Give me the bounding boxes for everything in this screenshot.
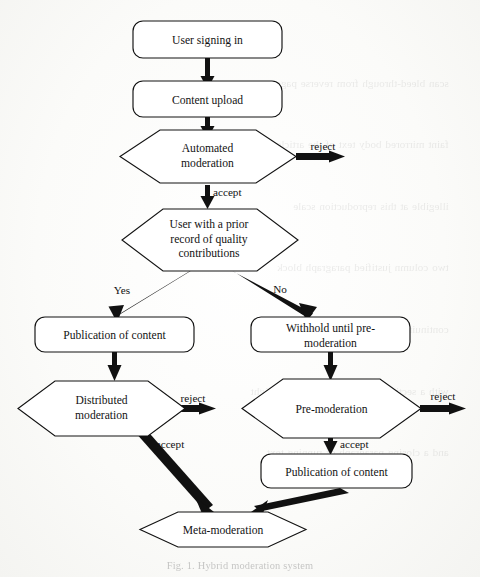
edge-publication-to-distributed (108, 352, 122, 381)
figure-caption: Fig. 1. Hybrid moderation system (0, 560, 480, 571)
node-label-line1: Withhold until pre- (286, 322, 375, 335)
node-label-line1: Distributed (75, 394, 127, 407)
flowchart-diagram: User signing in Content upload Automated… (0, 0, 480, 577)
node-pre-moderation[interactable]: Pre-moderation (242, 379, 421, 438)
node-label: User signing in (172, 34, 243, 47)
node-label: Meta-moderation (183, 524, 264, 537)
node-label-line2: moderation (181, 157, 234, 170)
edge-premoderation-reject (420, 403, 466, 415)
node-label-line2: moderation (304, 337, 357, 350)
edge-label-accept-distributed: accept (156, 438, 185, 450)
edge-label-no: No (273, 283, 287, 295)
node-content-upload[interactable]: Content upload (133, 81, 282, 117)
node-label-line2: moderation (75, 409, 128, 422)
edge-label-reject-distributed: reject (181, 392, 207, 404)
node-label: Publication of content (285, 466, 388, 479)
node-label-line1: User with a prior (170, 218, 249, 231)
node-prior-record[interactable]: User with a prior record of quality cont… (122, 209, 298, 271)
node-label-line1: Automated (182, 142, 234, 155)
node-label: Pre-moderation (295, 403, 367, 416)
edge-label-accept-premoderation: accept (340, 438, 369, 450)
node-label-line2: record of quality (170, 233, 247, 246)
node-automated-moderation[interactable]: Automated moderation (120, 130, 296, 183)
node-distributed-moderation[interactable]: Distributed moderation (18, 381, 185, 436)
edge-label-yes: Yes (114, 284, 130, 296)
node-user-signing-in[interactable]: User signing in (133, 21, 282, 58)
edge-withhold-to-premoderation (324, 352, 338, 381)
node-label: Content upload (172, 94, 243, 107)
node-meta-moderation[interactable]: Meta-moderation (140, 512, 306, 547)
scanned-page: scan bleed-through from reverse page fai… (0, 0, 480, 577)
node-publication-right[interactable]: Publication of content (261, 454, 412, 488)
node-label-line3: contributions (178, 247, 240, 260)
edge-automated-reject (296, 151, 345, 163)
edge-label-reject-premoderation: reject (431, 390, 457, 402)
node-publication-left[interactable]: Publication of content (35, 317, 194, 352)
edge-label-reject-automated: reject (311, 140, 337, 152)
edge-label-accept-automated: accept (213, 186, 242, 198)
node-withhold[interactable]: Withhold until pre- moderation (251, 317, 410, 352)
node-label: Publication of content (63, 329, 166, 342)
